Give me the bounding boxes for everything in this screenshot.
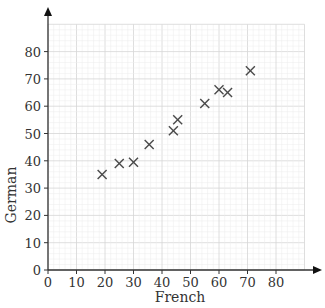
y-tick-label: 50 [24,127,41,142]
data-point-x-marker [200,99,209,108]
x-tick-label: 10 [68,275,85,290]
y-tick-label: 80 [24,45,41,60]
data-point-x-marker [115,159,124,168]
tick-labels: 0102030405060708001020304050607080 [24,45,284,290]
y-tick-label: 0 [33,263,41,278]
y-tick-label: 70 [24,72,41,87]
x-tick-label: 60 [211,275,228,290]
x-tick-label: 40 [154,275,171,290]
y-tick-label: 60 [24,99,41,114]
x-tick-label: 30 [125,275,142,290]
x-axis-title: French [155,289,206,305]
y-tick-label: 30 [24,181,41,196]
axes [44,7,322,274]
y-axis-title: German [3,167,19,224]
grid [48,24,305,270]
x-axis-arrow-icon [313,266,322,274]
x-tick-label: 0 [44,275,52,290]
y-tick-label: 40 [24,154,41,169]
y-tick-label: 10 [24,236,41,251]
y-tick-label: 20 [24,208,41,223]
x-tick-label: 70 [239,275,256,290]
data-point-x-marker [173,115,182,124]
x-tick-label: 50 [182,275,199,290]
y-axis-arrow-icon [44,7,52,16]
data-point-x-marker [223,88,232,97]
scatter-chart: 0102030405060708001020304050607080 Frenc… [0,0,325,308]
x-tick-label: 20 [97,275,114,290]
x-tick-label: 80 [268,275,285,290]
